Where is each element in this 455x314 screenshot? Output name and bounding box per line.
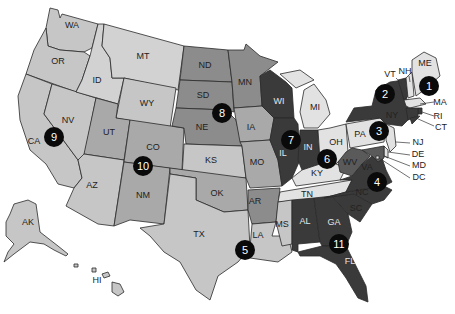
label-ga: GA (327, 217, 340, 227)
leader-de (388, 152, 410, 155)
label-az: AZ (86, 180, 98, 190)
leader-nj (396, 142, 410, 143)
svg-text:1: 1 (426, 80, 432, 92)
svg-text:6: 6 (324, 153, 330, 165)
marker-11[interactable]: 11 (329, 234, 349, 254)
svg-text:2: 2 (382, 88, 388, 100)
state-dc[interactable] (376, 156, 379, 159)
svg-text:8: 8 (219, 107, 225, 119)
label-ia: IA (247, 122, 256, 132)
label-ok: OK (210, 188, 223, 198)
svg-text:10: 10 (137, 160, 149, 172)
marker-7[interactable]: 7 (281, 130, 301, 150)
svg-text:9: 9 (51, 131, 57, 143)
leader-md (384, 156, 410, 166)
label-ky: KY (311, 168, 323, 178)
label-hi: HI (93, 275, 102, 285)
label-tx: TX (193, 229, 205, 239)
marker-5[interactable]: 5 (235, 240, 255, 260)
label-wy: WY (140, 98, 155, 108)
leader-ri (422, 112, 434, 116)
label-ar: AR (249, 196, 262, 206)
label-ut: UT (103, 127, 115, 137)
label-mt: MT (137, 51, 150, 61)
label-md: MD (412, 160, 426, 170)
marker-10[interactable]: 10 (133, 156, 153, 176)
marker-6[interactable]: 6 (317, 149, 337, 169)
label-ma: MA (433, 97, 447, 107)
label-pa: PA (354, 129, 365, 139)
marker-4[interactable]: 4 (367, 172, 387, 192)
state-ri[interactable] (418, 108, 422, 114)
label-va: VA (361, 162, 372, 172)
label-fl: FL (345, 256, 356, 266)
label-ne: NE (196, 122, 209, 132)
state-fl[interactable] (298, 246, 368, 302)
label-al: AL (299, 216, 310, 226)
label-ri: RI (434, 111, 443, 121)
label-sc: SC (350, 203, 363, 213)
label-nv: NV (62, 115, 75, 125)
label-tn: TN (301, 189, 313, 199)
svg-text:4: 4 (374, 176, 380, 188)
svg-text:5: 5 (242, 244, 248, 256)
label-ak: AK (22, 217, 34, 227)
label-me: ME (418, 58, 432, 68)
label-ct: CT (435, 122, 447, 132)
label-wi: WI (274, 96, 285, 106)
label-nc: NC (356, 187, 369, 197)
label-ms: MS (275, 219, 289, 229)
label-il: IL (279, 148, 287, 158)
marker-8[interactable]: 8 (212, 103, 232, 123)
label-wa: WA (65, 20, 79, 30)
label-or: OR (51, 56, 65, 66)
marker-2[interactable]: 2 (375, 84, 395, 104)
label-de: DE (412, 149, 425, 159)
label-nd: ND (199, 60, 212, 70)
label-sd: SD (197, 90, 210, 100)
marker-9[interactable]: 9 (44, 127, 64, 147)
svg-text:11: 11 (333, 238, 344, 250)
label-mo: MO (250, 157, 265, 167)
label-ny: NY (386, 110, 399, 120)
label-mi: MI (310, 102, 320, 112)
label-dc: DC (413, 172, 426, 182)
label-id: ID (93, 75, 103, 85)
label-ks: KS (205, 155, 217, 165)
us-map: WA OR CA NV ID MT WY UT CO AZ NM ND SD N… (0, 0, 455, 314)
label-nm: NM (136, 190, 150, 200)
label-co: CO (146, 142, 160, 152)
label-wv: WV (343, 157, 358, 167)
label-la: LA (252, 230, 263, 240)
label-in: IN (304, 142, 313, 152)
label-nh: NH (399, 66, 412, 76)
label-nj: NJ (413, 137, 424, 147)
label-mn: MN (238, 77, 252, 87)
label-vt: VT (384, 69, 396, 79)
svg-text:3: 3 (376, 125, 382, 137)
leader-ct (416, 118, 434, 126)
label-ca: CA (28, 136, 41, 146)
marker-1[interactable]: 1 (419, 76, 439, 96)
state-ak[interactable] (4, 200, 68, 262)
svg-text:7: 7 (288, 134, 294, 146)
marker-3[interactable]: 3 (369, 121, 389, 141)
state-ma[interactable] (404, 98, 426, 108)
label-oh: OH (329, 137, 343, 147)
